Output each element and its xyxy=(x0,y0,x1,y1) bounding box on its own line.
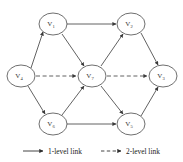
network-topology-figure: V1 V2 V3 V4 V5 V6 xyxy=(0,0,183,162)
legend-item-1-level: 1-level link xyxy=(23,147,82,156)
graph-canvas: V1 V2 V3 V4 V5 V6 xyxy=(0,0,183,162)
edge-v4-to-v6 xyxy=(28,86,45,114)
node-v5[interactable]: V5 xyxy=(117,113,145,135)
edge-v7-to-v2 xyxy=(101,34,123,66)
edge-v4-to-v1 xyxy=(31,32,43,68)
node-v4[interactable]: V4 xyxy=(7,65,35,87)
legend-1-level-label: 1-level link xyxy=(48,147,82,156)
edge-v7-to-v5 xyxy=(101,86,123,114)
legend-2-level-label: 2-level link xyxy=(126,147,160,156)
node-v2[interactable]: V2 xyxy=(117,13,145,35)
node-v6[interactable]: V6 xyxy=(39,113,67,135)
edge-v5-to-v3 xyxy=(141,87,158,116)
node-v1[interactable]: V1 xyxy=(39,13,67,35)
edge-v1-to-v7 xyxy=(62,34,84,66)
edge-v6-to-v7 xyxy=(62,86,84,115)
legend-item-2-level: 2-level link xyxy=(101,147,160,156)
node-layer: V1 V2 V3 V4 V5 V6 xyxy=(7,13,177,135)
node-v3[interactable]: V3 xyxy=(149,65,177,87)
edge-v2-to-v3 xyxy=(141,33,158,65)
legend: 1-level link 2-level link xyxy=(23,147,160,156)
node-v7[interactable]: V7 xyxy=(78,65,106,87)
